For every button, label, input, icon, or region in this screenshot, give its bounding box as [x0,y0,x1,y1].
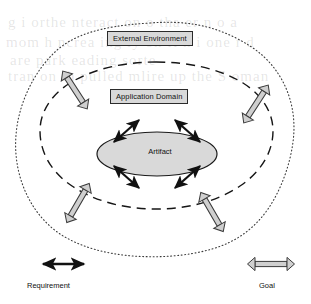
legend-item-goal-label: Goal [259,281,275,290]
goal-arrow-top-left [57,68,93,113]
legend-goal-arrow [248,257,295,270]
goal-arrow-bottom-right [195,189,229,235]
goal-arrow-top-right [238,82,274,127]
figure-canvas: g i orthe nteract on o tha er n o a mom … [0,0,311,304]
goal-arrow-bottom-left [61,180,95,226]
external-environment-label: External Environment [107,31,193,46]
application-domain-label: Application Domain [110,89,188,104]
artifact-label: Artifact [132,147,188,156]
legend-item-requirement-label: Requirement [27,281,70,290]
